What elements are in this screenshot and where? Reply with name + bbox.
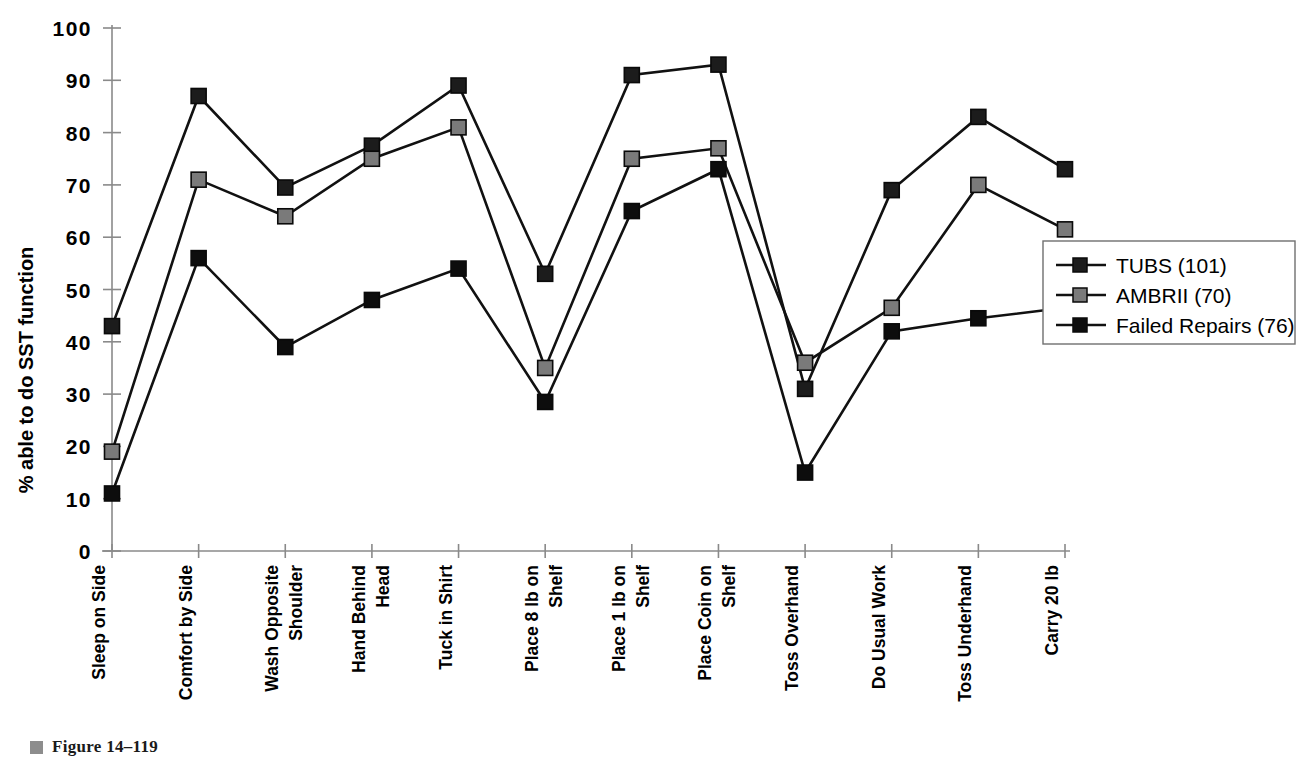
data-point-marker[interactable] <box>538 266 553 281</box>
x-axis-tick-label-line: Sleep on Side <box>89 565 109 680</box>
y-axis-tick-label: 70 <box>66 174 92 197</box>
x-axis-tick-label: Place 8 lb onShelf <box>522 565 566 672</box>
data-point-marker[interactable] <box>538 394 553 409</box>
data-point-marker[interactable] <box>191 88 206 103</box>
data-point-marker[interactable] <box>364 292 379 307</box>
data-point-marker[interactable] <box>1058 222 1073 237</box>
data-point-marker[interactable] <box>538 360 553 375</box>
x-axis-tick-label: Toss Overhand <box>782 565 802 691</box>
x-axis-tick-label-line: Shelf <box>633 565 653 608</box>
y-axis-title: % able to do SST function <box>15 247 37 494</box>
x-axis-tick-label-line: Carry 20 lb <box>1042 565 1062 655</box>
x-axis-tick-label-line: Do Usual Work <box>869 565 889 689</box>
data-point-marker[interactable] <box>105 319 120 334</box>
x-axis-tick-label-line: Toss Overhand <box>782 565 802 691</box>
series-line-0 <box>112 65 1065 389</box>
data-point-marker[interactable] <box>798 355 813 370</box>
x-axis-tick-label: Hand BehindHead <box>349 565 393 673</box>
data-point-marker[interactable] <box>884 300 899 315</box>
y-axis-tick-label: 50 <box>66 279 92 302</box>
x-axis-tick-label-line: Wash Opposite <box>262 565 282 692</box>
data-point-marker[interactable] <box>798 381 813 396</box>
y-axis-tick-label: 60 <box>66 226 92 249</box>
x-axis-tick-label-line: Toss Underhand <box>955 565 975 702</box>
x-axis-tick-label-line: Shelf <box>719 565 739 608</box>
data-point-marker[interactable] <box>624 68 639 83</box>
data-point-marker[interactable] <box>884 324 899 339</box>
line-chart: 0102030405060708090100% able to do SST f… <box>0 0 1308 735</box>
data-point-marker[interactable] <box>451 261 466 276</box>
x-axis-tick-label: Carry 20 lb <box>1042 565 1062 655</box>
y-axis-tick-label: 100 <box>52 17 92 40</box>
x-axis-tick-label: Wash OppositeShoulder <box>262 565 306 692</box>
y-axis-tick-label: 90 <box>66 69 92 92</box>
data-point-marker[interactable] <box>451 78 466 93</box>
data-point-marker[interactable] <box>711 141 726 156</box>
x-axis-tick-label-line: Tuck in Shirt <box>436 565 456 670</box>
data-point-marker[interactable] <box>624 151 639 166</box>
figure-container: 0102030405060708090100% able to do SST f… <box>0 0 1308 770</box>
legend-marker <box>1073 318 1087 332</box>
x-axis-tick-label: Place 1 lb onShelf <box>609 565 653 672</box>
x-axis-tick-label: Do Usual Work <box>869 565 889 689</box>
data-point-marker[interactable] <box>1058 162 1073 177</box>
y-axis-tick-label: 40 <box>66 331 92 354</box>
y-axis-tick-label: 0 <box>79 540 92 563</box>
x-axis-tick-label-line: Head <box>373 565 393 608</box>
y-axis-tick-label: 30 <box>66 383 92 406</box>
data-point-marker[interactable] <box>278 209 293 224</box>
data-point-marker[interactable] <box>711 57 726 72</box>
legend-label: Failed Repairs (76) <box>1116 314 1295 337</box>
data-point-marker[interactable] <box>278 180 293 195</box>
x-axis-tick-label-line: Comfort by Side <box>176 565 196 700</box>
data-point-marker[interactable] <box>191 172 206 187</box>
legend-label: AMBRII (70) <box>1116 284 1232 307</box>
legend-marker <box>1073 258 1087 272</box>
data-point-marker[interactable] <box>278 340 293 355</box>
figure-caption-text: Figure 14–119 <box>52 737 158 757</box>
figure-caption: Figure 14–119 <box>30 737 158 757</box>
legend-label: TUBS (101) <box>1116 254 1227 277</box>
data-point-marker[interactable] <box>798 465 813 480</box>
x-axis-tick-label-line: Place 8 lb on <box>522 565 542 672</box>
data-point-marker[interactable] <box>971 109 986 124</box>
data-point-marker[interactable] <box>451 120 466 135</box>
data-point-marker[interactable] <box>105 444 120 459</box>
data-point-marker[interactable] <box>624 204 639 219</box>
x-axis-tick-label: Tuck in Shirt <box>436 565 456 670</box>
data-point-marker[interactable] <box>971 311 986 326</box>
data-point-marker[interactable] <box>105 486 120 501</box>
x-axis-tick-label-line: Hand Behind <box>349 565 369 673</box>
x-axis-tick-label: Comfort by Side <box>176 565 196 700</box>
x-axis-tick-label-line: Place 1 lb on <box>609 565 629 672</box>
y-axis-tick-label: 80 <box>66 122 92 145</box>
legend-marker <box>1073 288 1087 302</box>
gray-square-bullet-icon <box>30 741 43 754</box>
y-axis-tick-label: 20 <box>66 435 92 458</box>
y-axis-tick-label: 10 <box>66 488 92 511</box>
x-axis-tick-label: Place Coin onShelf <box>695 565 739 681</box>
data-point-marker[interactable] <box>884 183 899 198</box>
x-axis-tick-label: Sleep on Side <box>89 565 109 680</box>
series-line-2 <box>112 169 1065 493</box>
data-point-marker[interactable] <box>971 177 986 192</box>
x-axis-tick-label-line: Shelf <box>546 565 566 608</box>
data-point-marker[interactable] <box>191 251 206 266</box>
data-point-marker[interactable] <box>364 151 379 166</box>
x-axis-tick-label-line: Shoulder <box>286 565 306 641</box>
x-axis-tick-label: Toss Underhand <box>955 565 975 702</box>
x-axis-tick-label-line: Place Coin on <box>695 565 715 681</box>
data-point-marker[interactable] <box>711 162 726 177</box>
